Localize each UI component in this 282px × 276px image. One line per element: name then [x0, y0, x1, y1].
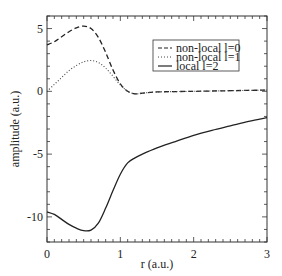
x-tick-label: 3 [264, 247, 270, 261]
x-tick-label: 0 [44, 247, 50, 261]
x-tick-label: 1 [117, 247, 123, 261]
chart: 012350-5-10 r (a.u.) amplitude (a.u.) no… [0, 0, 282, 276]
legend-label: local l=2 [176, 59, 218, 73]
y-tick-label: -10 [27, 210, 43, 224]
y-tick-label: -5 [33, 147, 43, 161]
series-line-solid [47, 118, 267, 231]
x-axis-label: r (a.u.) [141, 257, 173, 271]
x-tick-label: 2 [191, 247, 197, 261]
legend: non-local l=0 non-local l=1 local l=2 [153, 40, 240, 73]
y-tick-label: 5 [37, 22, 43, 36]
y-axis-label: amplitude (a.u.) [8, 91, 22, 167]
y-tick-label: 0 [37, 84, 43, 98]
